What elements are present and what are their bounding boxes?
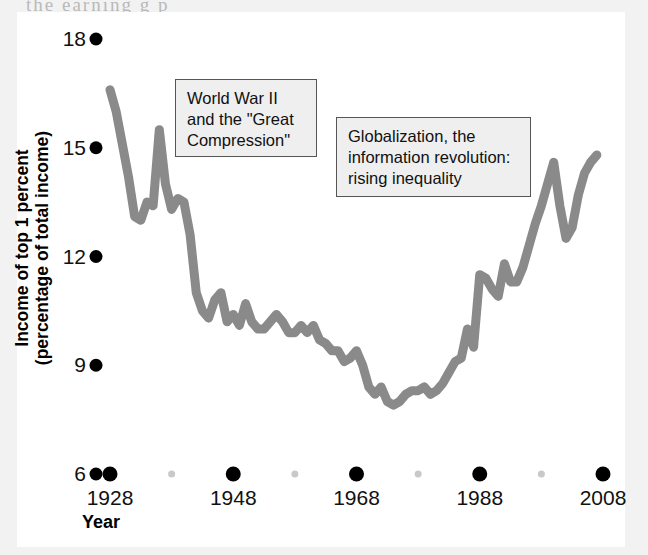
- y-tick-dot-15: [90, 141, 103, 154]
- annotation-ww2-line-3: Compression": [187, 130, 306, 151]
- x-tick-label-1968: 1968: [312, 487, 402, 508]
- y-tick-label-9: 9: [46, 354, 86, 375]
- y-tick-dot-9: [90, 359, 103, 372]
- x-tick-dot-1948: [226, 467, 241, 482]
- x-tick-label-2008: 2008: [558, 487, 648, 508]
- x-axis-title: Year: [82, 512, 120, 533]
- y-axis-title-line-2: (percentage of total income): [32, 98, 52, 398]
- x-tick-dot-1928: [103, 467, 118, 482]
- annotation-ww2-great-compression: World War II and the "Great Compression": [175, 79, 317, 157]
- y-axis-title-line-1: Income of top 1 percent: [12, 98, 32, 398]
- annotation-globalization-inequality: Globalization, the information revolutio…: [336, 117, 531, 197]
- y-tick-label-15: 15: [46, 137, 86, 158]
- x-tick-dot-2008: [596, 467, 611, 482]
- y-tick-dot-6: [90, 468, 103, 481]
- annotation-globalization-line-2: information revolution:: [348, 147, 520, 168]
- x-minor-tick-dot-1998: [538, 471, 545, 478]
- y-axis-tick-markers: [90, 33, 103, 481]
- annotation-ww2-line-1: World War II: [187, 88, 306, 109]
- annotation-globalization-line-3: rising inequality: [348, 168, 520, 189]
- x-tick-label-1948: 1948: [188, 487, 278, 508]
- x-axis-tick-markers: [103, 467, 611, 482]
- y-tick-dot-18: [90, 33, 103, 46]
- x-tick-label-1928: 1928: [65, 487, 155, 508]
- y-tick-label-12: 12: [46, 246, 86, 267]
- annotation-ww2-line-2: and the "Great: [187, 109, 306, 130]
- y-tick-label-18: 18: [46, 28, 86, 49]
- x-tick-dot-1968: [349, 467, 364, 482]
- x-tick-label-1988: 1988: [435, 487, 525, 508]
- x-tick-dot-1988: [472, 467, 487, 482]
- y-axis-title: Income of top 1 percent (percentage of t…: [12, 98, 52, 398]
- y-tick-label-6: 6: [46, 463, 86, 484]
- chart-plot: [0, 0, 648, 555]
- x-minor-tick-dot-1978: [415, 471, 422, 478]
- x-minor-tick-dot-1938: [168, 471, 175, 478]
- y-tick-dot-12: [90, 250, 103, 263]
- annotation-globalization-line-1: Globalization, the: [348, 126, 520, 147]
- x-minor-tick-dot-1958: [291, 471, 298, 478]
